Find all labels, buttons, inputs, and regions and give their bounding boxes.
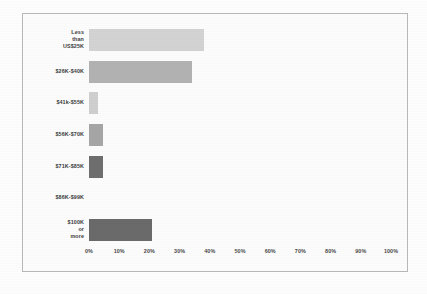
bar-segment [89,124,103,146]
x-tick-label: 100% [384,248,398,254]
x-tick-label: 30% [174,248,185,254]
bar-row: $56K-$70K [89,119,391,151]
category-label: $41k-$55K [56,100,84,107]
category-label: $71K-$85K [56,163,84,170]
bar-row: $71K-$85K [89,151,391,183]
category-label: $100K or more [68,219,84,241]
bar-segment [89,92,98,114]
plot-area: Less than US$25K $26K-$40K $41k-$55K $56… [89,24,391,246]
bar-segment [89,61,192,83]
x-tick-label: 10% [114,248,125,254]
x-tick-label: 50% [234,248,245,254]
bar-row: $100K or more [89,214,391,246]
x-tick-label: 80% [325,248,336,254]
category-label: $86K-$99K [56,195,84,202]
bar-segment [89,219,152,241]
x-axis: 0%10%20%30%40%50%60%70%80%90%100% [89,246,391,262]
bar-segment [89,156,103,178]
category-label: $26K-$40K [56,68,84,75]
x-tick-label: 20% [144,248,155,254]
x-tick-label: 90% [355,248,366,254]
x-tick-label: 60% [265,248,276,254]
bar-row: $26K-$40K [89,56,391,88]
category-label: $56K-$70K [56,131,84,138]
bar-row: $41k-$55K [89,87,391,119]
bar-row: Less than US$25K [89,24,391,56]
bar-segment [89,29,204,51]
chart-figure: Less than US$25K $26K-$40K $41k-$55K $56… [0,0,427,294]
chart-frame: Less than US$25K $26K-$40K $41k-$55K $56… [22,13,408,272]
x-tick-label: 70% [295,248,306,254]
category-label: Less than US$25K [63,29,84,51]
x-tick-label: 0% [85,248,93,254]
x-tick-label: 40% [204,248,215,254]
bar-row: $86K-$99K [89,183,391,215]
